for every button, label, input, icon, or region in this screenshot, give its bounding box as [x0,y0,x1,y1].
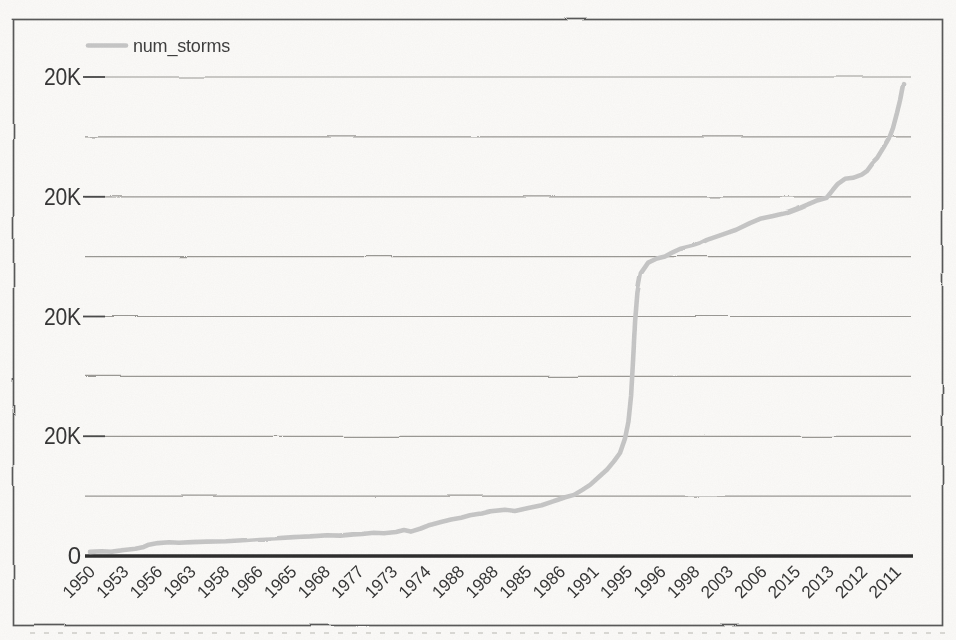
scanned-chart-page: 20K20K20K20K0195019531956196319581966196… [0,0,956,640]
num-storms-line-chart: 20K20K20K20K0195019531956196319581966196… [0,0,956,640]
scan-grain-overlay [0,0,956,640]
